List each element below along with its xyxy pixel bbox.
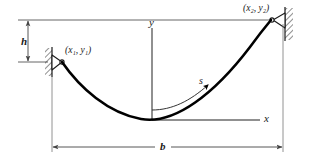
span-extension-lines bbox=[52, 24, 283, 152]
y-axis-label: y bbox=[149, 17, 154, 28]
left-support-point-label: (x₁, y₁) bbox=[65, 46, 91, 56]
figure-canvas bbox=[0, 0, 313, 166]
height-dimension-label: h bbox=[21, 36, 27, 47]
arc-length-arrow bbox=[152, 85, 208, 110]
right-support-point-label: (x₂, y₂) bbox=[243, 4, 269, 14]
span-dimension-line bbox=[53, 140, 282, 154]
span-dimension-label: b bbox=[160, 141, 166, 152]
arc-length-label: s bbox=[199, 76, 203, 86]
x-axis-label: x bbox=[264, 113, 269, 124]
catenary-curve bbox=[62, 20, 271, 120]
left-wall-support bbox=[45, 47, 52, 77]
catenary-figure: (x₁, y₁) (x₂, y₂) y x s h b bbox=[0, 0, 313, 166]
right-wall-support bbox=[285, 7, 293, 41]
